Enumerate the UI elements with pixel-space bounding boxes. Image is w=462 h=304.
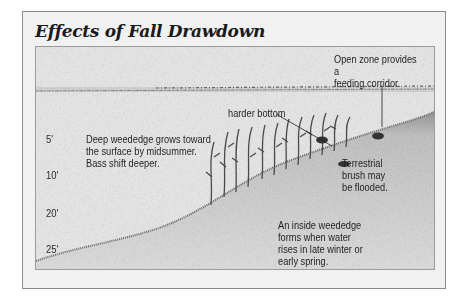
figure-panel: Effects of Fall Drawdown [22,11,446,289]
harder-bottom-annotation: harder bottom [228,107,286,119]
depth-marker-25ft: 25' [46,243,58,255]
figure-title: Effects of Fall Drawdown [35,21,265,41]
terrestrial-brush-annotation: Terrestrial brush may be flooded. [342,157,388,193]
deep-weededge-annotation: Deep weededge grows toward the surface b… [86,133,211,169]
depth-marker-20ft: 20' [46,207,58,219]
bass-fish-icon [372,133,384,140]
depth-marker-10ft: 10' [46,169,58,181]
open-zone-annotation: Open zone provides a feeding corridor. [334,53,422,89]
inside-weededge-annotation: An inside weededge forms when water rise… [278,219,363,267]
depth-marker-5ft: 5' [46,133,53,145]
illustration-frame: 5' 10' 20' 25' Open zone provides a feed… [35,46,435,270]
